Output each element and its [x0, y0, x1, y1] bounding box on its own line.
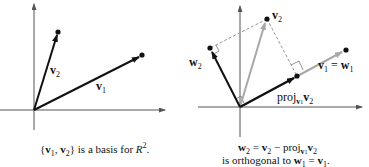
right-caption-line2: is orthogonal to w1 = v1. — [222, 154, 330, 167]
dashed-v2-to-proj — [267, 19, 297, 76]
v1-sub: 1 — [102, 86, 106, 95]
proj-v-sub: 2 — [309, 97, 313, 106]
left-v1-label: v1 — [96, 80, 106, 95]
cap-text: is a basis for — [75, 143, 136, 155]
cap-space: R — [136, 143, 143, 155]
rv1-eq: = — [328, 58, 341, 72]
left-v2-point — [55, 29, 60, 34]
right-proj-label: projv1v2 — [277, 91, 313, 106]
left-v2-label: v2 — [50, 64, 60, 79]
c2-eq: = — [306, 154, 318, 166]
right-v2-label: v2 — [272, 9, 282, 24]
w2-base: w — [189, 55, 198, 69]
right-angle-w2 — [214, 45, 219, 54]
right-v2-point — [264, 16, 269, 21]
c2-text: is orthogonal to — [222, 154, 294, 166]
left-figure — [0, 4, 165, 130]
c2-end: . — [327, 154, 330, 166]
v2-sub: 2 — [56, 70, 60, 79]
cap-end: . — [147, 143, 150, 155]
left-caption: {v1, v2} is a basis for R2. — [40, 141, 149, 158]
w2-sub: 2 — [198, 62, 202, 71]
c1-minus: − proj — [271, 141, 300, 153]
right-w2-label: w2 — [189, 56, 202, 71]
c1-w: w — [238, 141, 246, 153]
proj-text: proj — [277, 90, 296, 104]
w1-sub: 1 — [349, 65, 353, 74]
left-v1-point — [139, 52, 144, 57]
c1-eq: = — [250, 141, 262, 153]
proj-point — [294, 73, 299, 78]
rv2-sub: 2 — [278, 15, 282, 24]
w2-point — [207, 45, 212, 50]
right-v1-point — [343, 47, 348, 52]
right-v1-w1-label: v1 = w1 — [318, 59, 353, 74]
right-v2-vector — [240, 23, 265, 107]
w2-vector — [212, 52, 240, 107]
c2-w: w — [294, 154, 302, 166]
